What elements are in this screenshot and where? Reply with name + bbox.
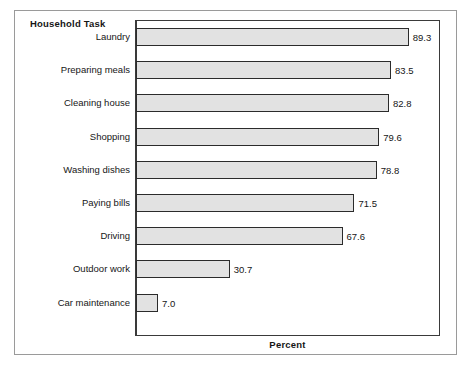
bar-row: Laundry89.3 — [0, 28, 472, 46]
bar-category-label: Car maintenance — [0, 294, 130, 312]
bar — [136, 227, 343, 245]
bar-row: Washing dishes78.8 — [0, 161, 472, 179]
bar-value-label: 82.8 — [393, 94, 412, 112]
bar-category-label: Preparing meals — [0, 61, 130, 79]
bar — [136, 128, 379, 146]
bar — [136, 260, 230, 278]
bar-value-label: 7.0 — [162, 294, 175, 312]
bar-category-label: Washing dishes — [0, 161, 130, 179]
bar-category-label: Driving — [0, 227, 130, 245]
bar-row: Car maintenance7.0 — [0, 294, 472, 312]
bar-category-label: Outdoor work — [0, 260, 130, 278]
bar-category-label: Cleaning house — [0, 94, 130, 112]
bar-row: Shopping79.6 — [0, 128, 472, 146]
bar — [136, 61, 391, 79]
bar-row: Driving67.6 — [0, 227, 472, 245]
bar-value-label: 83.5 — [395, 61, 414, 79]
bar-category-label: Paying bills — [0, 194, 130, 212]
bar-row: Preparing meals83.5 — [0, 61, 472, 79]
bar-value-label: 89.3 — [413, 28, 432, 46]
bar — [136, 161, 377, 179]
x-axis-title: Percent — [135, 339, 440, 350]
bar-chart-figure: Household Task Laundry89.3Preparing meal… — [0, 0, 472, 372]
bar-value-label: 67.6 — [347, 227, 366, 245]
bar — [136, 294, 158, 312]
bar-value-label: 78.8 — [381, 161, 400, 179]
bar-value-label: 79.6 — [383, 128, 402, 146]
bar-category-label: Shopping — [0, 128, 130, 146]
bar-category-label: Laundry — [0, 28, 130, 46]
bar-row: Paying bills71.5 — [0, 194, 472, 212]
bar — [136, 94, 389, 112]
bar-value-label: 71.5 — [358, 194, 377, 212]
bar-row: Outdoor work30.7 — [0, 260, 472, 278]
bar-value-label: 30.7 — [234, 260, 253, 278]
bar — [136, 194, 354, 212]
bar — [136, 28, 409, 46]
bar-row: Cleaning house82.8 — [0, 94, 472, 112]
